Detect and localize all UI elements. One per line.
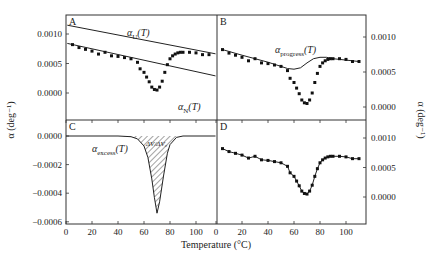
x-tick-label: 40 xyxy=(264,227,274,237)
data-point xyxy=(156,89,159,92)
data-point xyxy=(303,101,306,104)
y-tick-label: −0.0004 xyxy=(32,188,62,198)
data-point xyxy=(358,157,361,160)
data-point xyxy=(326,58,329,61)
x-axis-title: Temperature (°C) xyxy=(181,239,251,251)
data-point xyxy=(319,65,322,68)
y-axis-title-right: α (deg⁻¹) xyxy=(415,101,427,138)
data-point xyxy=(313,175,316,178)
data-point xyxy=(254,57,257,60)
data-point xyxy=(247,59,250,62)
data-point xyxy=(136,61,139,64)
data-point xyxy=(306,102,309,105)
data-point xyxy=(295,180,298,183)
alpha-n-line xyxy=(67,43,215,76)
data-point xyxy=(179,51,182,54)
y-tick-label: 0.0010 xyxy=(37,29,62,39)
hatched-area xyxy=(66,136,216,213)
data-point xyxy=(289,171,292,174)
data-point xyxy=(97,53,100,56)
data-point xyxy=(104,51,107,54)
data-point xyxy=(117,55,120,58)
data-point xyxy=(91,50,94,53)
data-point xyxy=(166,63,169,66)
hatch-label: ΔV/ΔV₀ xyxy=(145,140,168,148)
data-point xyxy=(313,81,316,84)
data-point xyxy=(303,192,306,195)
data-point xyxy=(84,48,87,51)
data-point xyxy=(260,158,263,161)
data-point xyxy=(286,69,289,72)
data-point xyxy=(150,86,153,89)
x-tick-label: 40 xyxy=(114,227,124,237)
data-point xyxy=(308,99,311,102)
data-point xyxy=(221,147,224,150)
y-tick-label: 0.0005 xyxy=(37,59,62,69)
data-point xyxy=(295,87,298,90)
panel-label-a: A xyxy=(69,16,77,27)
data-point xyxy=(293,81,296,84)
alpha-excess-annotation: αexcess(T) xyxy=(92,143,128,157)
y-tick-label: 0.0005 xyxy=(371,163,396,173)
data-point xyxy=(298,92,301,95)
data-point xyxy=(201,53,204,56)
data-point xyxy=(316,72,319,75)
data-point xyxy=(308,190,311,193)
data-point xyxy=(329,57,332,60)
x-tick-label: 0 xyxy=(214,227,219,237)
data-point xyxy=(316,167,319,170)
data-point xyxy=(161,80,164,83)
data-point xyxy=(174,53,177,56)
alpha-excess-line xyxy=(66,136,216,213)
data-point xyxy=(260,61,263,64)
x-tick-label: 100 xyxy=(189,227,203,237)
data-point xyxy=(158,86,161,89)
panel-label-b: B xyxy=(220,16,227,27)
y-axis-title-left: α (deg⁻¹) xyxy=(5,101,17,138)
data-point xyxy=(358,60,361,63)
data-point xyxy=(289,77,292,80)
data-point xyxy=(228,52,231,55)
x-tick-label: 80 xyxy=(166,227,176,237)
data-point xyxy=(171,54,174,57)
x-tick-label: 0 xyxy=(64,227,69,237)
data-point xyxy=(321,61,324,64)
data-point xyxy=(110,54,113,57)
data-point xyxy=(321,158,324,161)
data-point xyxy=(351,157,354,160)
data-point xyxy=(234,152,237,155)
data-point xyxy=(228,150,231,153)
data-point xyxy=(280,65,283,68)
data-point xyxy=(324,157,327,160)
panel-frames xyxy=(66,15,366,224)
data-point xyxy=(324,59,327,62)
panel-label-d: D xyxy=(220,121,227,132)
panel-label-c: C xyxy=(69,121,76,132)
data-point xyxy=(208,53,211,56)
data-point xyxy=(345,155,348,158)
data-point xyxy=(221,48,224,51)
data-point xyxy=(319,161,322,164)
data-point xyxy=(326,155,329,158)
y-tick-label: 0.0000 xyxy=(37,131,62,141)
x-tick-label: 20 xyxy=(238,227,248,237)
data-point xyxy=(345,58,348,61)
x-tick-label: 20 xyxy=(88,227,98,237)
data-point xyxy=(241,56,244,59)
data-point xyxy=(176,51,179,54)
y-tick-label: −0.0002 xyxy=(32,160,62,170)
data-point xyxy=(182,51,185,54)
data-point xyxy=(351,60,354,63)
alpha-n-annotation: αN(T) xyxy=(178,101,201,115)
data-point xyxy=(332,155,335,158)
data-point xyxy=(130,57,133,60)
data-point xyxy=(298,184,301,187)
x-tick-label: 60 xyxy=(140,227,150,237)
data-point xyxy=(311,92,314,95)
data-point xyxy=(163,71,166,74)
y-tick-label: 0.0005 xyxy=(371,67,396,77)
data-point xyxy=(71,43,74,46)
data-point xyxy=(188,51,191,54)
y-tick-label: 0.0000 xyxy=(371,192,396,202)
panel-c xyxy=(66,136,216,213)
